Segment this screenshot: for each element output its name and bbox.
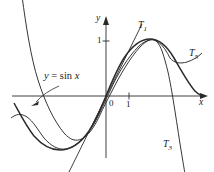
- curve-label-T5-subscript: 5: [195, 53, 199, 61]
- figure-canvas: [0, 0, 214, 172]
- y-tick-label-1: 1: [97, 36, 102, 45]
- taylor-polynomial-figure: y x 1 1 0 T1 T5 T3 y = sin x: [0, 0, 214, 172]
- curve-label-T5: T5: [189, 48, 198, 61]
- curve-label-T1: T1: [138, 20, 147, 33]
- function-label: y = sin x: [44, 71, 79, 82]
- curve-label-T1-subscript: 1: [144, 25, 148, 33]
- x-axis-label: x: [199, 98, 203, 108]
- function-label-equals: =: [49, 70, 60, 81]
- y-axis-label: y: [96, 14, 100, 24]
- function-label-leader-line: [36, 86, 59, 102]
- y-axis-arrowhead: [103, 16, 109, 25]
- function-label-leader-arrowhead: [31, 101, 39, 106]
- x-tick-label-1: 1: [126, 100, 131, 109]
- origin-label: 0: [109, 99, 114, 108]
- function-label-x: x: [72, 70, 79, 81]
- curve-label-T3-subscript: 3: [169, 144, 173, 152]
- curve-label-T3: T3: [163, 139, 172, 152]
- function-label-sin: sin: [60, 70, 72, 81]
